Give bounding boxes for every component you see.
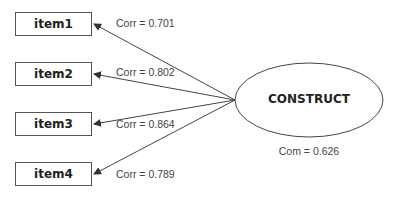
item4-box: item4	[15, 162, 92, 186]
item2-box: item2	[15, 62, 92, 86]
item3-corr-label: Corr = 0.864	[116, 118, 175, 130]
arrow-item4	[94, 100, 235, 174]
arrow-item1	[94, 24, 235, 100]
item3-box: item3	[15, 112, 92, 136]
item1-corr-label: Corr = 0.701	[116, 17, 175, 29]
item2-corr-label: Corr = 0.802	[116, 66, 175, 78]
item1-box: item1	[15, 12, 92, 36]
construct-label: CONSTRUCT	[235, 92, 383, 106]
com-label: Com = 0.626	[235, 145, 383, 157]
item4-corr-label: Corr = 0.789	[116, 168, 175, 180]
